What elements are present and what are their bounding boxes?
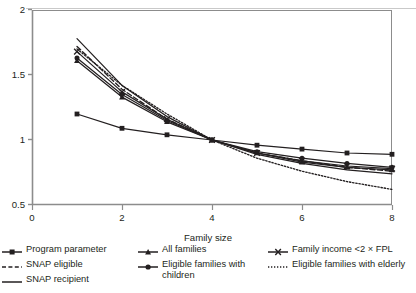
x-tick-label: 0 <box>12 212 52 223</box>
y-tick-label: 1.5 <box>0 69 25 80</box>
legend-item: Program parameter <box>2 244 142 258</box>
legend-item-label: Eligible families with elderly <box>292 259 416 270</box>
y-tick-label: 2 <box>0 4 25 15</box>
x-tick-label: 4 <box>192 212 232 223</box>
x-tick-label: 6 <box>282 212 322 223</box>
x-axis-title: Family size <box>0 232 416 243</box>
legend-item: SNAP recipient <box>2 274 142 288</box>
x-tick-label: 8 <box>372 212 412 223</box>
line-square-marker-icon <box>2 248 23 256</box>
legend-column-1: Program parameterSNAP eligibleSNAP recip… <box>2 244 142 293</box>
legend-item-label: SNAP recipient <box>26 274 142 285</box>
legend-item-label: SNAP eligible <box>26 259 142 270</box>
legend-key <box>268 263 289 271</box>
legend-item-label: Eligible families with children <box>162 259 273 282</box>
legend-item-label: All families <box>162 244 273 255</box>
y-tick-label: 0.5 <box>0 199 25 210</box>
legend-key <box>2 263 23 271</box>
legend-key <box>2 248 23 256</box>
data-series-layer <box>74 39 395 190</box>
legend-item: SNAP eligible <box>2 259 142 273</box>
x-tick-label: 2 <box>102 212 142 223</box>
legend-key <box>138 248 159 256</box>
chart-legend: Program parameterSNAP eligibleSNAP recip… <box>0 244 416 293</box>
legend-item-label: Family income <2 × FPL <box>292 244 416 255</box>
legend-item: Eligible families with children <box>138 259 273 282</box>
legend-item: Eligible families with elderly <box>268 259 416 273</box>
line-x-marker-icon <box>268 248 289 256</box>
legend-item-label: Program parameter <box>26 244 142 255</box>
legend-key <box>268 248 289 256</box>
series-line <box>75 112 395 157</box>
legend-key <box>2 278 23 286</box>
legend-item: All families <box>138 244 273 258</box>
line-dashed-icon <box>2 263 23 271</box>
legend-column-3: Family income <2 × FPLEligible families … <box>268 244 416 293</box>
line-triangle-marker-icon <box>138 248 159 256</box>
axes-frame <box>32 10 392 205</box>
y-tick-label: 1 <box>0 134 25 145</box>
line-solid-icon <box>2 278 23 286</box>
line-circle-marker-icon <box>138 263 159 271</box>
line-dotted-icon <box>268 263 289 271</box>
legend-column-2: All familiesEligible families with child… <box>138 244 273 293</box>
legend-item: Family income <2 × FPL <box>268 244 416 258</box>
chart-figure: 0.511.52 02468 Family size Program param… <box>0 0 416 293</box>
legend-key <box>138 263 159 271</box>
